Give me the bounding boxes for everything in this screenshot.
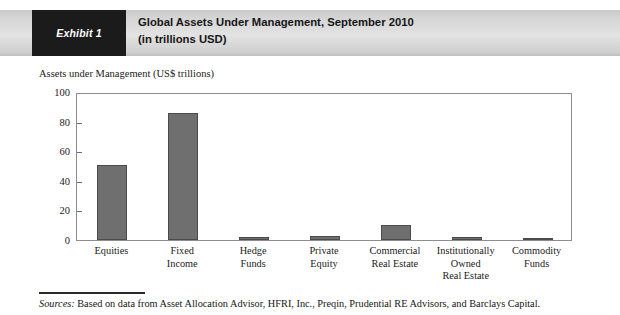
x-axis-category-label: CommercialReal Estate [359, 245, 430, 270]
source-divider [39, 292, 145, 294]
bar [168, 113, 198, 240]
x-axis-category-label-line: Funds [501, 258, 572, 271]
x-axis-category-label-line: Equities [76, 245, 147, 258]
y-axis-tick-mark [77, 152, 82, 153]
y-axis-tick-label: 40 [36, 177, 70, 187]
x-axis-category-label: Equities [76, 245, 147, 258]
bar [310, 236, 340, 240]
bar [452, 237, 482, 240]
x-axis-category-label-line: Owned [430, 258, 501, 271]
source-text: Based on data from Asset Allocation Advi… [75, 298, 540, 309]
plot-inner [77, 94, 571, 240]
x-axis-category-label-line: Commodity [501, 245, 572, 258]
x-axis-category-label-line: Fixed [147, 245, 218, 258]
y-axis-tick-label: 20 [36, 206, 70, 216]
bar-chart: 020406080100 EquitiesFixedIncomeHedgeFun… [0, 0, 620, 315]
y-axis-tick-mark [77, 123, 82, 124]
y-axis-tick-label: 80 [36, 118, 70, 128]
x-axis-category-label: FixedIncome [147, 245, 218, 270]
x-axis-category-label: CommodityFunds [501, 245, 572, 270]
x-axis-category-label-line: Equity [289, 258, 360, 271]
source-note: Sources: Based on data from Asset Alloca… [39, 298, 540, 309]
source-label: Sources: [39, 298, 75, 309]
x-axis-category-label-line: Real Estate [359, 258, 430, 271]
bar [381, 225, 411, 240]
x-axis-category-label: InstitutionallyOwnedReal Estate [430, 245, 501, 283]
x-axis-category-label: HedgeFunds [218, 245, 289, 270]
x-axis-category-label-line: Hedge [218, 245, 289, 258]
x-axis-category-label-line: Funds [218, 258, 289, 271]
y-axis-tick-mark [77, 182, 82, 183]
y-axis-tick-label: 60 [36, 147, 70, 157]
x-axis-category-label-line: Private [289, 245, 360, 258]
y-axis-tick-label: 100 [36, 88, 70, 98]
x-axis-category-label-line: Institutionally [430, 245, 501, 258]
bar [97, 165, 127, 240]
y-axis-tick-mark [77, 211, 82, 212]
y-axis-tick-label: 0 [36, 236, 70, 246]
plot-area [76, 93, 572, 241]
bar [523, 238, 553, 241]
y-axis-tick-labels: 020406080100 [34, 93, 70, 241]
x-axis-category-label-line: Real Estate [430, 270, 501, 283]
x-axis-category-label-line: Income [147, 258, 218, 271]
bar [239, 237, 269, 240]
x-axis-category-label: PrivateEquity [289, 245, 360, 270]
x-axis-category-label-line: Commercial [359, 245, 430, 258]
